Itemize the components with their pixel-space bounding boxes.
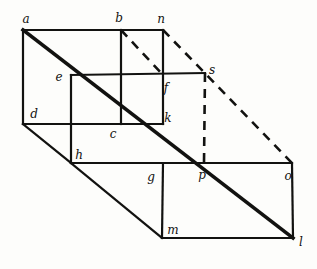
geometric-figure-canvas: abnefsdckhgpoml [0, 0, 317, 269]
vertex-label-h: h [75, 149, 83, 161]
vertex-label-a: a [22, 13, 29, 25]
vertex-label-s: s [209, 64, 215, 76]
vertex-label-c: c [110, 128, 117, 140]
dashed-b-f [121, 30, 163, 75]
edge-e-s [71, 73, 205, 75]
vertex-label-e: e [55, 71, 62, 83]
vertex-label-d: d [30, 108, 38, 120]
edges-layer [23, 30, 293, 238]
vertex-label-p: p [198, 169, 206, 181]
vertex-label-l: l [299, 236, 303, 248]
vertex-label-f: f [164, 82, 168, 94]
edge-o-l [292, 163, 293, 238]
vertex-label-b: b [115, 12, 123, 24]
figure-svg [0, 0, 317, 269]
vertex-label-g: g [147, 171, 155, 183]
edge-g-m [162, 163, 163, 238]
diagonal-a-e-c-k-p-l [23, 30, 293, 238]
vertex-label-o: o [284, 170, 291, 182]
vertex-label-n: n [157, 13, 165, 25]
edge-d-h [23, 124, 71, 163]
vertex-label-k: k [164, 112, 171, 124]
dashed-s-p [204, 73, 205, 163]
vertex-label-m: m [167, 224, 178, 236]
dashed-n-o [163, 30, 292, 163]
